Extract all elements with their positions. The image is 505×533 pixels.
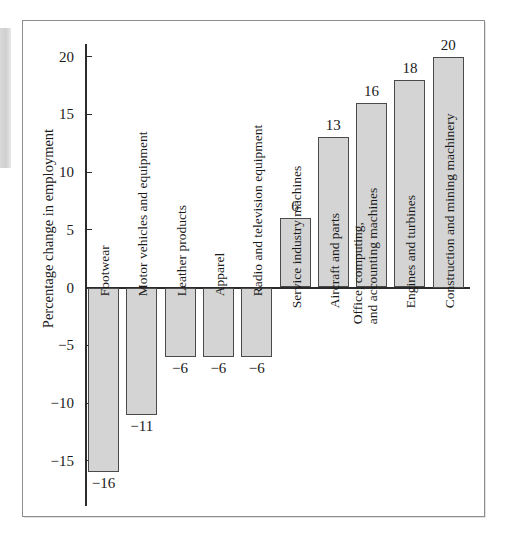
y-axis-tick-label: −15 bbox=[40, 461, 80, 462]
bar bbox=[203, 288, 234, 357]
y-axis-tick-label: 10 bbox=[40, 172, 80, 173]
category-label: Engines and turbines bbox=[404, 194, 418, 307]
bar bbox=[88, 288, 119, 473]
y-axis-tick-mark bbox=[86, 114, 92, 115]
y-axis-tick-label-text: 20 bbox=[59, 49, 74, 66]
y-axis-tick-label: 5 bbox=[40, 230, 80, 231]
bar bbox=[165, 288, 196, 357]
y-axis-tick-label: −5 bbox=[40, 345, 80, 346]
y-axis-tick-label-text: 15 bbox=[59, 106, 74, 123]
category-label: Radio and television equipment bbox=[251, 124, 265, 295]
category-label: Apparel bbox=[213, 252, 227, 295]
category-label: Leather products bbox=[174, 205, 188, 296]
y-axis-tick-mark bbox=[86, 229, 92, 230]
y-axis-tick-label-text: 10 bbox=[59, 164, 74, 181]
bar-value-label: 18 bbox=[382, 60, 437, 77]
y-axis-tick-label-text: −15 bbox=[51, 453, 74, 470]
bar bbox=[241, 288, 272, 357]
bar-value-label: −16 bbox=[76, 475, 131, 492]
bar-value-label: 20 bbox=[421, 37, 476, 54]
bar-value-label: 13 bbox=[306, 117, 361, 134]
category-label: Footwear bbox=[98, 245, 112, 296]
bar-value-label: −11 bbox=[114, 418, 169, 435]
y-axis-tick-mark bbox=[86, 56, 92, 57]
bar bbox=[126, 288, 157, 415]
bar-value-label: −6 bbox=[229, 360, 284, 377]
category-label: Office, computing, and accounting machin… bbox=[350, 187, 380, 323]
plot-area: Percentage change in employment 20151050… bbox=[0, 0, 505, 533]
y-axis-tick-label: 20 bbox=[40, 57, 80, 58]
category-label: Aircraft and parts bbox=[328, 212, 342, 307]
bar-value-label: 16 bbox=[344, 83, 399, 100]
y-axis-tick-label: −10 bbox=[40, 403, 80, 404]
y-axis-title: Percentage change in employment bbox=[40, 119, 57, 339]
category-label: Construction and mining machinery bbox=[443, 113, 457, 308]
category-label: Motor vehicles and equipment bbox=[136, 131, 150, 296]
y-axis-tick-label: 15 bbox=[40, 114, 80, 115]
y-axis-tick-label-text: 5 bbox=[67, 222, 75, 239]
y-axis-tick-label-text: −10 bbox=[51, 395, 74, 412]
y-axis-tick-mark bbox=[86, 172, 92, 173]
category-label: Service industry machines bbox=[289, 165, 303, 307]
y-axis-tick-label: 0 bbox=[40, 288, 80, 289]
chart-screenshot: Percentage change in employment 20151050… bbox=[0, 0, 505, 533]
y-axis-tick-label-text: −5 bbox=[58, 337, 74, 354]
y-axis-tick-label-text: 0 bbox=[67, 280, 75, 297]
